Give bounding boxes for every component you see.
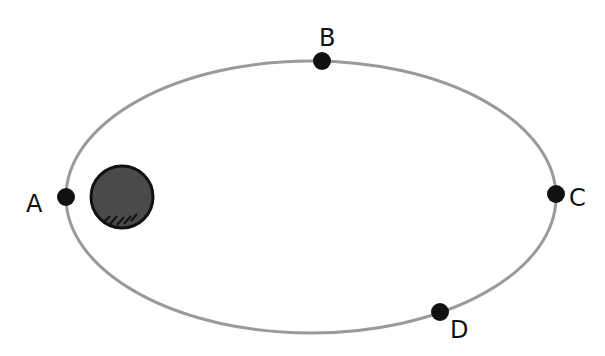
point-b-label: B — [319, 24, 335, 52]
point-a-label: A — [26, 190, 43, 218]
point-d-label: D — [450, 316, 468, 344]
point-c: C — [547, 184, 586, 212]
central-body — [91, 166, 153, 228]
orbit-diagram: A B C D — [0, 0, 605, 356]
point-b: B — [313, 24, 335, 70]
point-c-label: C — [569, 184, 586, 212]
